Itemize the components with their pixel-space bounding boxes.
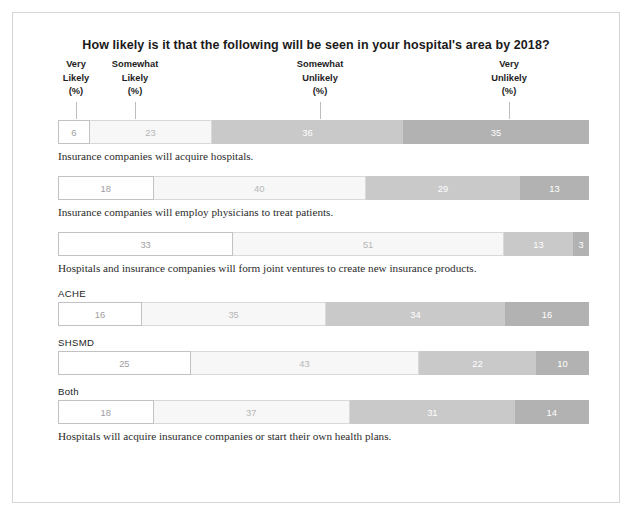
page-title: How likely is it that the following will… [13,38,619,52]
bar-block-2: 18402913Insurance companies will employ … [58,176,589,218]
bar-segment-1: 18 [58,400,154,424]
spacer [58,326,589,337]
bar-segment-1: 33 [58,232,233,256]
spacer [58,218,589,232]
bar-segment-4: 13 [520,176,589,200]
column-header-3-line-1: Somewhat [297,58,344,72]
column-header-2-line-1: Somewhat [112,58,159,72]
column-header-2: SomewhatLikely(%) [112,58,159,99]
bar-segment-3: 36 [212,120,403,144]
bar-caption-3: Hospitals and insurance companies will f… [58,262,589,274]
bar-block-4: ACHE16353416 [58,288,589,326]
column-header-4-line-2: Unlikely [491,72,527,86]
bar-segment-2: 35 [142,302,326,326]
column-tick-2 [135,102,136,119]
column-header-4-line-3: (%) [491,85,527,99]
bar-caption-2: Insurance companies will employ physicia… [58,206,589,218]
group-label-both: Both [58,386,589,397]
bar-segment-3: 13 [504,232,573,256]
column-header-1: VeryLikely(%) [63,58,89,99]
stacked-bar: 18402913 [58,176,589,200]
bar-segment-2: 43 [191,351,419,375]
bar-segment-3: 22 [419,351,536,375]
column-headers: VeryLikely(%)SomewhatLikely(%)SomewhatUn… [58,58,589,120]
bars-container: 6233635Insurance companies will acquire … [58,120,589,456]
stacked-bar: 18373114 [58,400,589,424]
bar-segment-4: 35 [403,120,589,144]
bar-segment-3: 29 [366,176,520,200]
spacer [58,274,589,288]
column-header-4: VeryUnlikely(%) [491,58,527,99]
bar-segment-1: 6 [58,120,90,144]
stacked-bar: 16353416 [58,302,589,326]
bar-block-6: Both18373114Hospitals will acquire insur… [58,386,589,442]
group-label-ache: ACHE [58,288,589,299]
spacer [58,442,589,456]
spacer [58,375,589,386]
bar-block-3: 3351133Hospitals and insurance companies… [58,232,589,274]
bar-segment-4: 16 [505,302,589,326]
figure-frame: How likely is it that the following will… [12,12,620,503]
bar-segment-3: 34 [326,302,505,326]
bar-segment-4: 3 [573,232,589,256]
bar-segment-1: 18 [58,176,154,200]
column-tick-4 [509,102,510,119]
column-header-1-line-2: Likely [63,72,89,86]
column-header-2-line-3: (%) [112,85,159,99]
stacked-bar: 6233635 [58,120,589,144]
bar-segment-3: 31 [350,400,515,424]
column-header-4-line-1: Very [491,58,527,72]
column-header-3-line-2: Unlikely [297,72,344,86]
bar-segment-4: 14 [515,400,589,424]
stacked-bar: 3351133 [58,232,589,256]
group-label-shsmd: SHSMD [58,337,589,348]
column-tick-3 [320,102,321,119]
bar-segment-1: 16 [58,302,142,326]
column-header-1-line-3: (%) [63,85,89,99]
bar-caption-1: Insurance companies will acquire hospita… [58,150,589,162]
bar-segment-2: 37 [154,400,350,424]
column-header-2-line-2: Likely [112,72,159,86]
column-header-3: SomewhatUnlikely(%) [297,58,344,99]
bar-caption-6: Hospitals will acquire insurance compani… [58,430,589,442]
bar-segment-2: 23 [90,120,212,144]
stacked-bar: 25432210 [58,351,589,375]
bar-block-1: 6233635Insurance companies will acquire … [58,120,589,162]
column-header-1-line-1: Very [63,58,89,72]
bar-segment-4: 10 [536,351,589,375]
plot-area: VeryLikely(%)SomewhatLikely(%)SomewhatUn… [58,58,589,456]
bar-segment-1: 25 [58,351,191,375]
column-tick-1 [76,102,77,119]
bar-block-5: SHSMD25432210 [58,337,589,375]
bar-segment-2: 40 [154,176,366,200]
bar-segment-2: 51 [233,232,504,256]
spacer [58,162,589,176]
column-header-3-line-3: (%) [297,85,344,99]
